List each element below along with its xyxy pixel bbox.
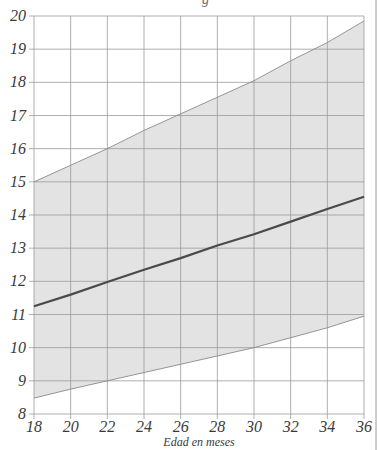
y-tick-label: 17 — [10, 107, 27, 124]
y-axis-tick-labels: 891011121314151617181920 — [10, 7, 27, 422]
x-tick-label: 28 — [209, 418, 225, 435]
x-tick-label: 30 — [245, 418, 262, 435]
y-tick-label: 10 — [10, 339, 26, 356]
y-tick-label: 9 — [18, 372, 26, 389]
x-tick-label: 18 — [26, 418, 42, 435]
x-tick-label: 22 — [99, 418, 115, 435]
growth-chart: g 891011121314151617181920 1820222426283… — [0, 0, 378, 450]
y-tick-label: 18 — [10, 73, 26, 90]
y-tick-label: 13 — [10, 239, 26, 256]
y-tick-label: 15 — [10, 173, 26, 190]
chart-title-fragment: g — [202, 0, 209, 7]
y-tick-label: 11 — [11, 306, 26, 323]
x-tick-label: 20 — [63, 418, 79, 435]
y-tick-label: 8 — [18, 405, 26, 422]
x-tick-label: 34 — [318, 418, 335, 435]
x-axis-tick-labels: 18202224262830323436 — [26, 418, 372, 435]
reference-band — [34, 21, 364, 398]
x-tick-label: 26 — [173, 418, 189, 435]
x-tick-label: 24 — [136, 418, 152, 435]
y-tick-label: 12 — [10, 272, 26, 289]
y-tick-label: 20 — [10, 7, 26, 24]
band-fill — [34, 21, 364, 398]
y-tick-label: 16 — [10, 140, 26, 157]
x-axis-label: Edad en meses — [162, 435, 235, 449]
y-tick-label: 19 — [10, 40, 26, 57]
x-tick-label: 36 — [355, 418, 372, 435]
y-tick-label: 14 — [10, 206, 26, 223]
x-tick-label: 32 — [282, 418, 299, 435]
